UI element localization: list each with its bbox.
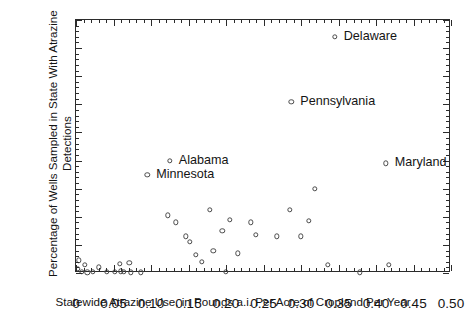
data-point-maryland	[383, 161, 388, 166]
data-point	[207, 207, 212, 212]
point-label-alabama: Alabama	[179, 154, 229, 167]
y-axis-minor-tick	[76, 234, 79, 235]
data-point	[248, 220, 253, 225]
x-axis-minor-tick	[369, 20, 370, 23]
x-axis-major-tick	[189, 20, 190, 26]
x-axis-minor-tick	[159, 20, 160, 23]
y-axis-minor-tick	[446, 138, 449, 139]
data-point	[82, 262, 87, 267]
y-axis-minor-tick	[446, 267, 449, 268]
y-axis-minor-tick	[446, 82, 449, 83]
y-axis-major-tick	[443, 48, 449, 49]
y-axis-minor-tick	[446, 87, 449, 88]
x-axis-minor-tick	[166, 268, 167, 271]
y-axis-minor-tick	[76, 177, 79, 178]
y-axis-minor-tick	[446, 59, 449, 60]
x-axis-minor-tick	[429, 20, 430, 23]
x-axis-minor-tick	[391, 268, 392, 271]
x-axis-minor-tick	[196, 20, 197, 23]
x-axis-minor-tick	[279, 268, 280, 271]
data-point-pennsylvania	[289, 99, 294, 104]
x-axis-minor-tick	[294, 20, 295, 23]
x-axis-major-tick	[151, 20, 152, 26]
y-axis-major-tick	[76, 189, 82, 190]
y-axis-minor-tick	[446, 65, 449, 66]
y-axis-minor-tick	[76, 138, 79, 139]
x-axis-minor-tick	[249, 268, 250, 271]
x-axis-minor-tick	[181, 20, 182, 23]
x-axis-major-tick	[339, 20, 340, 26]
x-axis-minor-tick	[99, 20, 100, 23]
y-axis-minor-tick	[76, 54, 79, 55]
y-axis-minor-tick	[446, 206, 449, 207]
y-axis-major-tick	[443, 104, 449, 105]
data-point	[235, 251, 240, 256]
y-axis-minor-tick	[76, 239, 79, 240]
data-point	[211, 248, 216, 253]
data-point	[138, 269, 143, 274]
y-axis-minor-tick	[446, 200, 449, 201]
data-point	[193, 252, 198, 257]
x-axis-minor-tick	[316, 20, 317, 23]
x-axis-major-tick	[226, 20, 227, 26]
x-axis-minor-tick	[421, 20, 422, 23]
plot-area: 0102030405060708090 00.050.100.150.200.2…	[75, 19, 450, 272]
x-axis-minor-tick	[286, 20, 287, 23]
y-axis-minor-tick	[446, 42, 449, 43]
x-axis-minor-tick	[384, 20, 385, 23]
x-axis-minor-tick	[174, 20, 175, 23]
data-point	[117, 261, 122, 266]
y-axis-minor-tick	[446, 239, 449, 240]
y-axis-minor-tick	[446, 99, 449, 100]
x-axis-minor-tick	[204, 268, 205, 271]
y-axis-minor-tick	[76, 65, 79, 66]
y-axis-minor-tick	[76, 256, 79, 257]
x-axis-minor-tick	[181, 268, 182, 271]
x-axis-minor-tick	[129, 20, 130, 23]
data-point	[312, 186, 317, 191]
x-axis-minor-tick	[331, 268, 332, 271]
x-axis-minor-tick	[84, 268, 85, 271]
y-axis-minor-tick	[446, 177, 449, 178]
y-axis-major-tick	[443, 245, 449, 246]
y-axis-minor-tick	[446, 211, 449, 212]
x-axis-minor-tick	[309, 20, 310, 23]
y-axis-major-tick	[76, 273, 82, 274]
x-axis-minor-tick	[346, 20, 347, 23]
x-axis-minor-tick	[316, 268, 317, 271]
x-axis-minor-tick	[384, 268, 385, 271]
x-axis-minor-tick	[234, 268, 235, 271]
y-axis-major-tick	[443, 20, 449, 21]
data-point	[187, 239, 192, 244]
x-axis-minor-tick	[166, 20, 167, 23]
data-point-minnesota	[145, 172, 150, 177]
y-axis-major-tick	[443, 189, 449, 190]
x-axis-minor-tick	[391, 20, 392, 23]
y-axis-major-tick	[443, 76, 449, 77]
x-axis-minor-tick	[241, 268, 242, 271]
y-axis-minor-tick	[446, 256, 449, 257]
y-axis-minor-tick	[446, 234, 449, 235]
x-axis-major-tick	[414, 265, 415, 271]
y-axis-minor-tick	[446, 26, 449, 27]
y-axis-major-tick	[76, 132, 82, 133]
y-axis-minor-tick	[76, 211, 79, 212]
x-axis-minor-tick	[354, 268, 355, 271]
y-axis-major-tick	[443, 132, 449, 133]
y-axis-minor-tick	[446, 127, 449, 128]
y-axis-minor-tick	[76, 116, 79, 117]
y-axis-minor-tick	[76, 183, 79, 184]
y-axis-minor-tick	[446, 54, 449, 55]
x-axis-minor-tick	[129, 268, 130, 271]
x-axis-minor-tick	[399, 268, 400, 271]
x-axis-minor-tick	[256, 20, 257, 23]
x-axis-major-tick	[376, 20, 377, 26]
y-axis-minor-tick	[446, 71, 449, 72]
x-axis-minor-tick	[241, 20, 242, 23]
x-axis-minor-tick	[219, 20, 220, 23]
x-axis-minor-tick	[234, 20, 235, 23]
y-axis-major-tick	[76, 20, 82, 21]
y-axis-minor-tick	[76, 71, 79, 72]
x-axis-minor-tick	[444, 268, 445, 271]
y-axis-minor-tick	[446, 194, 449, 195]
